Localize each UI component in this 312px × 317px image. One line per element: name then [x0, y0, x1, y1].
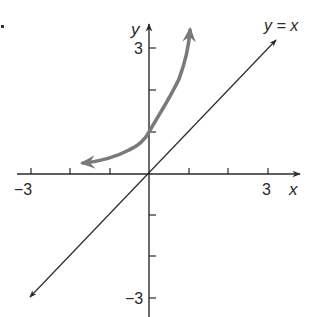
y-tick-label-3: 3	[134, 40, 143, 57]
x-tick-label-neg3: −3	[14, 181, 32, 198]
x-tick-label-3: 3	[262, 181, 271, 198]
y-axis-label: y	[130, 20, 141, 39]
y-tick-label-neg3: −3	[125, 290, 143, 307]
graph: −3 3 3 −3 x y y = x	[0, 0, 312, 317]
x-axis-label: x	[288, 180, 298, 199]
speck	[1, 25, 4, 28]
line-y-equals-x	[30, 40, 276, 297]
y-ticks	[149, 48, 156, 298]
line-y-equals-x-label: y = x	[263, 17, 299, 34]
